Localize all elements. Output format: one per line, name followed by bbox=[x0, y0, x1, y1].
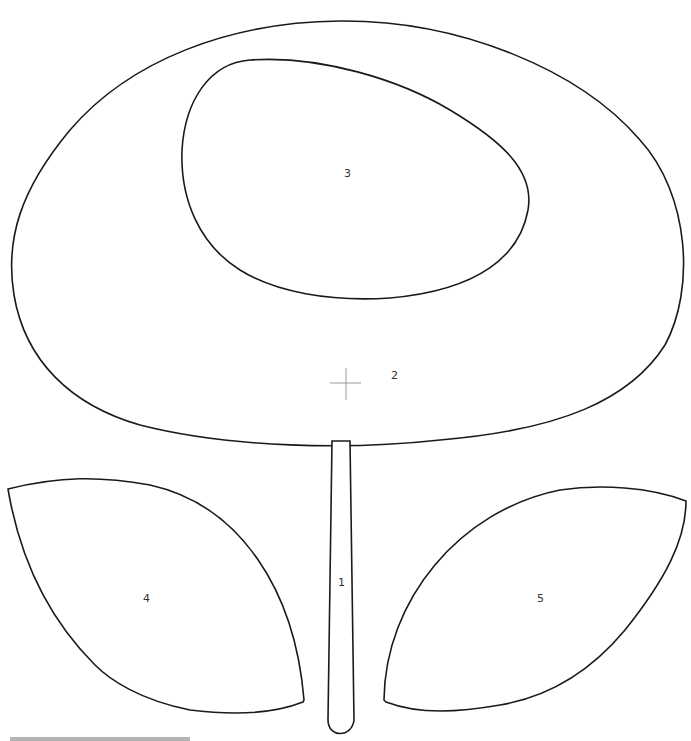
flower-head-label: 2 bbox=[391, 370, 398, 381]
left-leaf-outline bbox=[8, 479, 304, 713]
left-leaf-label: 4 bbox=[143, 593, 150, 604]
right-leaf-label: 5 bbox=[537, 593, 544, 604]
right-leaf-outline bbox=[384, 487, 686, 711]
stem-label: 1 bbox=[338, 577, 345, 588]
bottom-grey-bar bbox=[10, 737, 190, 741]
flower-center-label: 3 bbox=[344, 168, 351, 179]
template-canvas bbox=[0, 0, 691, 741]
